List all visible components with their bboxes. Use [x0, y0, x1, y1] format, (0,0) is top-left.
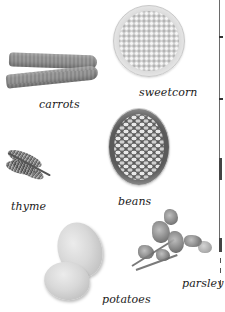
- beans-bowl-illustration: [108, 108, 170, 186]
- label-sweetcorn: sweetcorn: [139, 86, 198, 99]
- parsley-leaf-5: [198, 241, 212, 253]
- thyme-sprig-illustration: [4, 140, 60, 180]
- parsley-leaf-3: [168, 231, 184, 253]
- page-edge-mark: [219, 98, 223, 100]
- carrots-illustration: [6, 52, 98, 98]
- sweetcorn-bowl-illustration: [113, 5, 185, 77]
- parsley-leaf-6: [138, 245, 154, 259]
- parsley-leaf-2: [164, 209, 178, 225]
- parsley-leaf-7: [156, 249, 170, 261]
- label-parsley: parsley: [182, 277, 223, 290]
- page-edge-tick: [220, 280, 221, 285]
- page-edge-tick: [220, 268, 221, 273]
- potatoes-illustration: [44, 222, 104, 302]
- page-edge-block: [219, 238, 222, 252]
- parsley-sprig-illustration: [130, 205, 218, 277]
- label-carrots: carrots: [39, 98, 80, 111]
- page-edge-tick: [220, 258, 221, 263]
- carrot-2: [6, 65, 99, 89]
- book-page: carrots sweetcorn thyme beans potatoes p…: [0, 0, 225, 312]
- label-thyme: thyme: [11, 200, 46, 213]
- page-edge-block: [219, 158, 222, 180]
- label-potatoes: potatoes: [102, 293, 151, 306]
- page-edge-mark: [219, 36, 223, 38]
